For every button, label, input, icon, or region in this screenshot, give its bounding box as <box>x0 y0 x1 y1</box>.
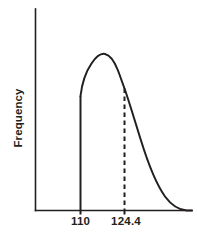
x-tick-label-124-4: 124.4 <box>111 215 141 227</box>
chart-canvas: 110 124.4 Frequency <box>0 0 197 232</box>
x-tick-label-110: 110 <box>71 215 90 227</box>
distribution-curve <box>81 54 193 211</box>
y-axis-title: Frequency <box>12 88 24 148</box>
frequency-distribution-chart: 110 124.4 Frequency <box>0 0 197 232</box>
